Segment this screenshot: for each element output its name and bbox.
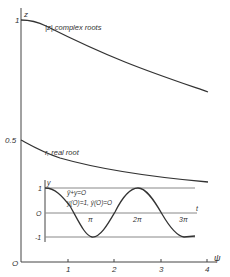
inset-pi-label: π — [88, 216, 93, 223]
y-tick-1-label: 1 — [15, 16, 19, 25]
inset-two-pi-label: 2π — [132, 216, 142, 223]
inset-equation: ÿ+y=O — [66, 189, 86, 197]
inset-minus-one-label: -1 — [35, 234, 41, 241]
inset-initial-conditions: y(O)=1, ẏ(O)=O — [66, 199, 112, 207]
inset-oscillator-plot: y 1 O -1 t π 2π 3π ÿ+y=O y(O)=1, ẏ(O)=O — [35, 179, 199, 242]
real-root-label: r, real root — [45, 148, 80, 157]
inset-zero-label: O — [36, 210, 42, 217]
figure: z 1 0.5 O 1 2 3 4 ψ |z|,complex roots r,… — [0, 0, 230, 277]
inset-y-label: y — [46, 179, 51, 187]
real-root-curve — [21, 140, 208, 182]
z-axis-label: z — [23, 10, 28, 19]
psi-axis-label: ψ — [214, 253, 221, 263]
inset-t-label: t — [196, 205, 199, 212]
x-tick-1-label: 1 — [66, 265, 70, 274]
inset-one-label: 1 — [38, 185, 42, 192]
origin-label: O — [12, 259, 18, 268]
complex-roots-label: |z|,complex roots — [45, 23, 102, 32]
root-plot: z 1 0.5 O 1 2 3 4 ψ |z|,complex roots r,… — [0, 0, 230, 277]
y-tick-half-label: 0.5 — [5, 136, 17, 145]
x-tick-2-label: 2 — [111, 265, 117, 274]
inset-three-pi-label: 3π — [179, 216, 188, 223]
x-tick-3-label: 3 — [159, 265, 164, 274]
x-tick-4-label: 4 — [205, 265, 210, 274]
